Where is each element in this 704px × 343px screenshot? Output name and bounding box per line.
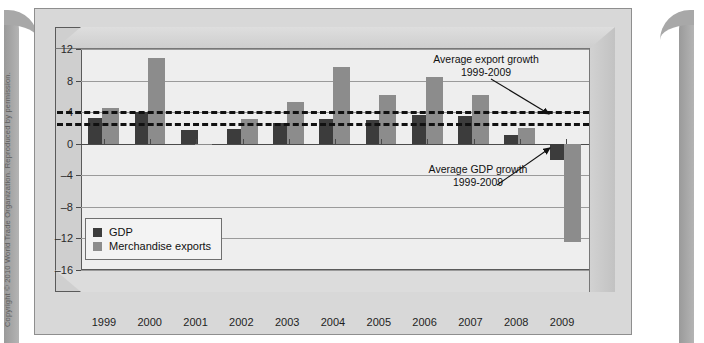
arrow-gdp-growth — [497, 148, 550, 185]
legend-item-gdp: GDP — [93, 226, 211, 238]
copyright-notice: Copyright © 2010 World Trade Organizatio… — [3, 72, 12, 327]
legend-label-merchandise-exports: Merchandise exports — [109, 240, 211, 252]
legend-label-gdp: GDP — [109, 226, 133, 238]
arrow-export-growth — [491, 79, 549, 114]
annotation-arrows — [35, 9, 633, 336]
legend-item-merchandise-exports: Merchandise exports — [93, 240, 211, 252]
decorative-right-band — [658, 0, 704, 343]
chart-legend: GDP Merchandise exports — [85, 218, 222, 260]
legend-swatch-merchandise-exports — [93, 242, 102, 251]
legend-swatch-gdp — [93, 228, 102, 237]
chart-figure: 12840–4–8–12–16 199920002001200220032004… — [34, 8, 632, 335]
